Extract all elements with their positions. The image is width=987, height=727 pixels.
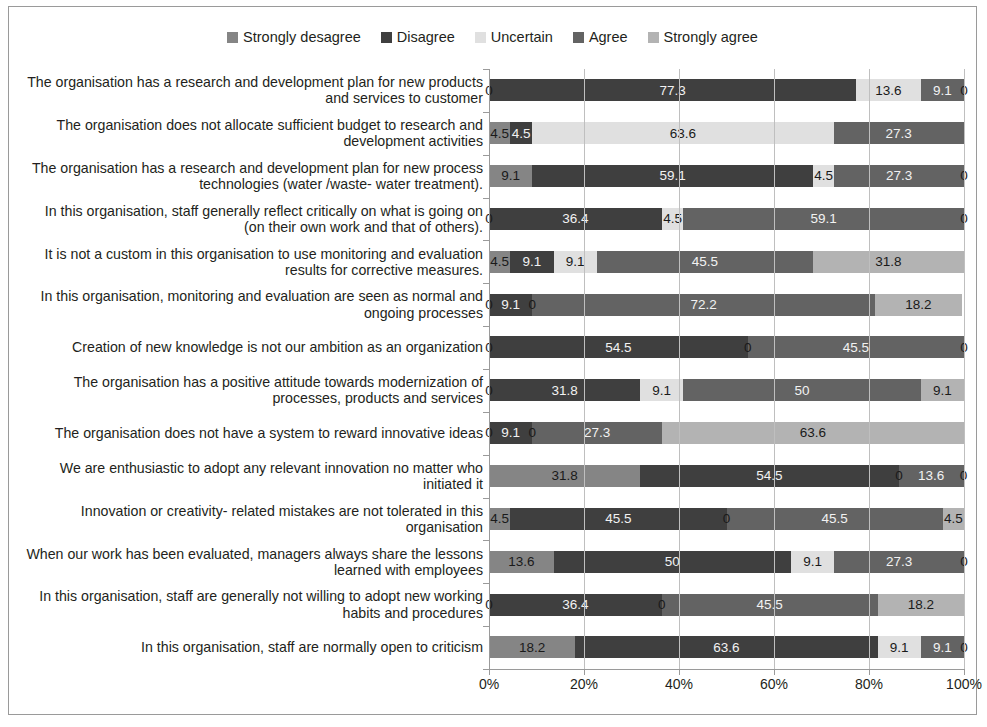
bar-value-label: 13.6: [918, 469, 944, 483]
bar-segment[interactable]: 54.5: [489, 336, 748, 358]
bar-value-label: 9.1: [933, 384, 952, 398]
bar-segment[interactable]: 63.6: [575, 636, 877, 658]
legend-item[interactable]: Disagree: [381, 29, 455, 45]
stacked-bar[interactable]: 18.263.69.19.10: [489, 636, 964, 658]
bar-segment[interactable]: 27.3: [834, 551, 964, 573]
y-axis-tick: [483, 240, 489, 241]
bar-segment[interactable]: 50: [554, 551, 792, 573]
stacked-bar[interactable]: 054.5045.50: [489, 336, 964, 358]
bar-segment[interactable]: 31.8: [489, 379, 640, 401]
bar-segment[interactable]: 4.5: [943, 508, 964, 530]
chart-row: When our work has been evaluated, manage…: [21, 540, 964, 583]
bar-cell: 4.59.19.145.531.8: [489, 240, 964, 283]
bar-segment[interactable]: 4.5: [510, 122, 531, 144]
stacked-bar[interactable]: 9.159.14.527.30: [489, 165, 964, 187]
bar-segment[interactable]: 9.1: [921, 79, 964, 101]
bar-segment[interactable]: 45.5: [748, 336, 964, 358]
bar-segment[interactable]: 50: [683, 379, 921, 401]
bar-segment[interactable]: 18.2: [878, 594, 964, 616]
bar-segment[interactable]: 4.5: [489, 508, 510, 530]
bar-segment[interactable]: 9.1: [554, 251, 597, 273]
bar-segment[interactable]: 36.4: [489, 594, 662, 616]
y-axis-tick: [483, 412, 489, 413]
y-axis-tick: [483, 326, 489, 327]
legend-swatch-icon: [381, 32, 392, 43]
bar-cell: 036.44.559.10: [489, 198, 964, 241]
bar-value-label: 0: [960, 469, 968, 483]
bar-segment[interactable]: 13.6: [899, 465, 964, 487]
bar-segment[interactable]: 18.2: [875, 294, 961, 316]
bar-value-label: 0: [528, 298, 536, 312]
stacked-bar[interactable]: 036.4045.518.2: [489, 594, 964, 616]
bar-segment[interactable]: 63.6: [532, 122, 834, 144]
bar-segment[interactable]: 13.6: [489, 551, 554, 573]
bar-value-label: 27.3: [584, 426, 610, 440]
stacked-bar[interactable]: 09.1027.363.6: [489, 422, 964, 444]
stacked-bar[interactable]: 09.1072.218.2: [489, 294, 964, 316]
stacked-bar[interactable]: 4.54.563.627.3: [489, 122, 964, 144]
legend-item[interactable]: Agree: [573, 29, 628, 45]
bar-segment[interactable]: 9.1: [921, 636, 964, 658]
bar-segment[interactable]: 13.6: [856, 79, 921, 101]
bar-segment[interactable]: 4.5: [813, 165, 834, 187]
bar-value-label: 50: [795, 384, 810, 398]
bar-value-label: 4.5: [490, 127, 509, 141]
bar-segment[interactable]: 4.5: [662, 208, 683, 230]
chart-row: The organisation has a research and deve…: [21, 69, 964, 112]
stacked-bar[interactable]: 4.59.19.145.531.8: [489, 251, 964, 273]
bar-value-label: 45.5: [757, 598, 783, 612]
bar-segment[interactable]: 9.1: [878, 636, 921, 658]
bar-value-label: 0: [960, 341, 968, 355]
bar-segment[interactable]: 45.5: [662, 594, 878, 616]
stacked-bar[interactable]: 13.6509.127.30: [489, 551, 964, 573]
bar-segment[interactable]: 9.1: [489, 165, 532, 187]
bar-segment[interactable]: 45.5: [597, 251, 813, 273]
bar-segment[interactable]: 27.3: [834, 165, 964, 187]
stacked-bar[interactable]: 31.854.5013.60: [489, 465, 964, 487]
legend-item[interactable]: Strongly agree: [648, 29, 758, 45]
bar-value-label: 63.6: [800, 426, 826, 440]
category-label: Innovation or creativity- related mistak…: [21, 503, 489, 535]
bar-value-label: 18.2: [908, 598, 934, 612]
y-axis-tick: [483, 198, 489, 199]
category-label: In this organisation, staff generally re…: [21, 203, 489, 235]
bar-segment[interactable]: 27.3: [532, 422, 662, 444]
bar-segment[interactable]: 59.1: [683, 208, 964, 230]
bar-segment[interactable]: 9.1: [510, 251, 553, 273]
bar-cell: 4.54.563.627.3: [489, 112, 964, 155]
bar-segment[interactable]: 63.6: [662, 422, 964, 444]
bar-segment[interactable]: 27.3: [834, 122, 964, 144]
bar-segment[interactable]: 9.1: [489, 294, 532, 316]
legend-label: Strongly agree: [664, 29, 758, 45]
stacked-bar[interactable]: 077.313.69.10: [489, 79, 964, 101]
bar-segment[interactable]: 45.5: [510, 508, 726, 530]
bar-segment[interactable]: 9.1: [640, 379, 683, 401]
bar-segment[interactable]: 9.1: [489, 422, 532, 444]
bar-segment[interactable]: 36.4: [489, 208, 662, 230]
stacked-bar[interactable]: 036.44.559.10: [489, 208, 964, 230]
bar-value-label: 4.5: [663, 212, 682, 226]
y-axis-tick: [483, 498, 489, 499]
bar-value-label: 9.1: [501, 426, 520, 440]
bar-segment[interactable]: 9.1: [921, 379, 964, 401]
bar-segment[interactable]: 4.5: [489, 251, 510, 273]
bar-segment[interactable]: 54.5: [640, 465, 899, 487]
stacked-bar[interactable]: 4.545.5045.54.5: [489, 508, 964, 530]
legend-item[interactable]: Strongly desagree: [227, 29, 361, 45]
legend-label: Agree: [589, 29, 628, 45]
bar-segment[interactable]: 59.1: [532, 165, 813, 187]
bar-segment[interactable]: 31.8: [813, 251, 964, 273]
bar-segment[interactable]: 31.8: [489, 465, 640, 487]
bar-segment[interactable]: 4.5: [489, 122, 510, 144]
legend-item[interactable]: Uncertain: [475, 29, 553, 45]
x-axis-line: [489, 669, 964, 670]
bar-cell: 09.1072.218.2: [489, 283, 964, 326]
bar-value-label: 45.5: [605, 512, 631, 526]
bar-segment[interactable]: 9.1: [791, 551, 834, 573]
bar-segment[interactable]: 45.5: [727, 508, 943, 530]
stacked-bar[interactable]: 031.89.1509.1: [489, 379, 964, 401]
bar-segment[interactable]: 77.3: [489, 79, 856, 101]
bar-segment[interactable]: 72.2: [532, 294, 875, 316]
bar-segment[interactable]: 18.2: [489, 636, 575, 658]
plot-area: The organisation has a research and deve…: [21, 69, 964, 702]
